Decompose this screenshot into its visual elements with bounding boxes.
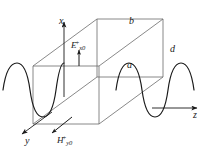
wave-left bbox=[3, 63, 64, 117]
axis-label-x: x bbox=[59, 16, 63, 26]
figure-canvas bbox=[0, 0, 205, 152]
h-field-arrow bbox=[52, 117, 72, 133]
box-depth-edges bbox=[33, 19, 163, 124]
h-field-subscript: y0 bbox=[66, 139, 72, 146]
e-field-label: E+x0 bbox=[71, 40, 85, 51]
axis-label-y: y bbox=[25, 136, 29, 146]
wave-right bbox=[116, 63, 194, 117]
dimension-label-b: b bbox=[129, 16, 134, 26]
waveguide-box bbox=[33, 19, 163, 124]
h-field-label: H+y0 bbox=[57, 135, 72, 146]
box-front-face bbox=[33, 66, 99, 124]
wave-group bbox=[3, 63, 194, 117]
waveguide-figure: x y z b d a E+x0 H+y0 bbox=[0, 0, 205, 152]
dimension-label-d: d bbox=[170, 44, 175, 54]
dimension-label-a: a bbox=[127, 60, 132, 70]
e-field-subscript: x0 bbox=[79, 44, 85, 51]
axis-label-z: z bbox=[193, 110, 197, 120]
